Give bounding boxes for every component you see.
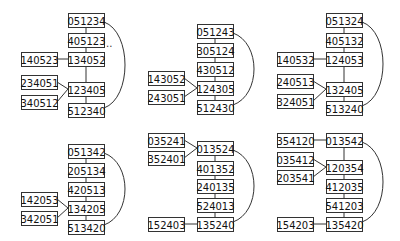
node-label: 051243	[196, 27, 234, 38]
node-box: 240513	[276, 75, 314, 89]
node-label: 420513	[67, 185, 105, 196]
node-label: 132405	[325, 85, 363, 96]
panel-6: 3541200135420354121203542035414120355412…	[276, 134, 383, 232]
node-label: 513240	[325, 104, 363, 115]
node-label: 243051	[147, 93, 185, 104]
node-box: 051342	[67, 145, 105, 159]
node-box: 051243	[196, 25, 234, 39]
node-label: 142053	[20, 195, 58, 206]
node-box: 513240	[325, 102, 363, 116]
node-box: 124305	[196, 82, 234, 96]
node-label: 541203	[325, 201, 363, 212]
node-label: 405123	[67, 36, 105, 47]
node-box: 513420	[67, 221, 105, 235]
node-label: 401352	[196, 164, 234, 175]
node-box: 305124	[196, 44, 234, 58]
node-label: 124053	[325, 55, 363, 66]
node-label: 340512	[20, 98, 58, 109]
node-box: 134205	[67, 202, 105, 216]
node-label: 013542	[325, 136, 363, 147]
node-box: 132405	[325, 83, 363, 97]
node-label: 035412	[276, 155, 314, 166]
panel-1: 0512344051231340521405232340511234053405…	[20, 14, 125, 118]
node-label: 051234	[67, 16, 105, 27]
node-label: 512430	[196, 103, 234, 114]
node-box: 124053	[325, 53, 363, 67]
node-box: 135420	[325, 218, 363, 232]
node-label: 234051	[20, 78, 58, 89]
ellipsis-mark: ..	[106, 38, 112, 49]
node-label: 013524	[196, 144, 234, 155]
node-label: 412035	[325, 182, 363, 193]
node-label: 123405	[67, 85, 105, 96]
node-box: 401352	[196, 162, 234, 176]
node-label: 524013	[196, 201, 234, 212]
node-box: 412035	[325, 180, 363, 194]
edge-line	[313, 159, 326, 167]
node-box: 541203	[325, 199, 363, 213]
arc-edge	[233, 150, 254, 222]
node-box: 234051	[20, 76, 58, 90]
node-label: 430512	[196, 65, 234, 76]
node-label: 240513	[276, 77, 314, 88]
node-label: 152403	[147, 220, 185, 231]
node-label: 305124	[196, 46, 234, 57]
edge-line	[57, 208, 68, 218]
edge-line	[184, 140, 197, 148]
edge-line	[57, 199, 68, 208]
node-label: 140532	[276, 55, 314, 66]
node-label: 135240	[196, 220, 234, 231]
node-box: 120354	[325, 161, 363, 175]
node-box: 405132	[325, 34, 363, 48]
node-label: 124305	[196, 84, 234, 95]
node-label: 203541	[276, 173, 314, 184]
node-label: 352401	[147, 154, 185, 165]
node-box: 512430	[196, 101, 234, 115]
node-box: 405123	[67, 34, 105, 48]
edge-line	[57, 82, 68, 89]
panel-3: 0513244051321240531405322405131324053240…	[276, 14, 383, 116]
node-box: 051324	[325, 14, 363, 28]
edge-line	[184, 88, 197, 97]
node-box: 134052	[67, 53, 105, 67]
node-box: 512340	[67, 104, 105, 118]
node-label: 135420	[325, 220, 363, 231]
permutation-graph-diagram: 0512344051231340521405232340511234053405…	[0, 0, 400, 241]
node-label: 154203	[276, 220, 314, 231]
edge-line	[57, 89, 68, 102]
node-box: 135240	[196, 218, 234, 232]
node-box: 142053	[20, 193, 58, 207]
node-label: 143052	[147, 74, 185, 85]
node-label: 354120	[276, 136, 314, 147]
node-label: 035241	[147, 136, 185, 147]
panel-2: 0512433051244305121430521243052430515124…	[147, 25, 254, 115]
edge-line	[313, 89, 326, 101]
edge-line	[313, 81, 326, 89]
node-box: 354120	[276, 134, 314, 148]
edge-line	[184, 148, 197, 158]
node-label: 205134	[67, 166, 105, 177]
node-label: 120354	[325, 163, 363, 174]
node-box: 143052	[147, 72, 185, 86]
node-box: 035412	[276, 153, 314, 167]
node-label: 342051	[20, 214, 58, 225]
arc-edge	[104, 153, 125, 225]
node-label: 405132	[325, 36, 363, 47]
node-box: 243051	[147, 91, 185, 105]
node-box: 035241	[147, 134, 185, 148]
node-box: 051234	[67, 14, 105, 28]
node-box: 013524	[196, 142, 234, 156]
node-label: 051324	[325, 16, 363, 27]
node-box: 240135	[196, 180, 234, 194]
arc-edge	[362, 142, 383, 222]
node-label: 240135	[196, 182, 234, 193]
node-box: 324051	[276, 95, 314, 109]
node-box: 420513	[67, 183, 105, 197]
node-box: 352401	[147, 152, 185, 166]
node-box: 342051	[20, 212, 58, 226]
arc-edge	[362, 22, 383, 106]
node-box: 524013	[196, 199, 234, 213]
node-label: 051342	[67, 147, 105, 158]
node-label: 512340	[67, 106, 105, 117]
panel-4: 0513422051344205131420531342053420515134…	[20, 145, 125, 235]
